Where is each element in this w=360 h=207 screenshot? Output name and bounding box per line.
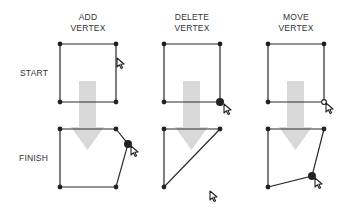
- diagram-canvas: [0, 0, 360, 207]
- cursor-arrow-icon: [117, 58, 124, 69]
- cursor-arrow-icon: [131, 146, 138, 157]
- cursor-arrow-icon: [315, 178, 322, 189]
- cursor-arrow-icon: [326, 103, 333, 114]
- down-arrow-icon: [175, 81, 208, 150]
- cursor-arrow-icon: [210, 191, 217, 202]
- down-arrow-icon: [279, 81, 312, 150]
- down-arrow-icon: [71, 81, 104, 150]
- cursor-arrow-icon: [224, 104, 231, 115]
